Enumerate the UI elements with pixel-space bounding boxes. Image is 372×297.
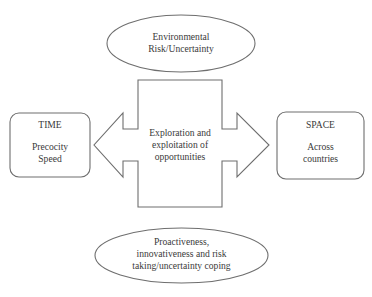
space-title: SPACE: [277, 119, 364, 131]
space-line-2: countries: [277, 153, 364, 165]
exploration-line-1: Exploration and: [138, 127, 222, 139]
space-line-1: Across: [277, 141, 364, 153]
environmental-risk-line-2: Risk/Uncertainty: [107, 43, 255, 55]
proactiveness-line-2: innovativeness and risk: [95, 248, 268, 260]
environmental-risk-label: Environmental Risk/Uncertainty: [107, 31, 255, 55]
time-label: TIME Precocity Speed: [10, 119, 90, 165]
proactiveness-line-1: Proactiveness,: [95, 236, 268, 248]
time-line-2: Speed: [10, 153, 90, 165]
time-title: TIME: [10, 119, 90, 131]
time-line-1: Precocity: [10, 141, 90, 153]
exploration-line-3: opportunities: [138, 151, 222, 163]
exploration-label: Exploration and exploitation of opportun…: [138, 127, 222, 163]
exploration-line-2: exploitation of: [138, 139, 222, 151]
environmental-risk-line-1: Environmental: [107, 31, 255, 43]
proactiveness-label: Proactiveness, innovativeness and risk t…: [95, 236, 268, 272]
proactiveness-line-3: taking/uncertainty coping: [95, 260, 268, 272]
space-label: SPACE Across countries: [277, 119, 364, 165]
